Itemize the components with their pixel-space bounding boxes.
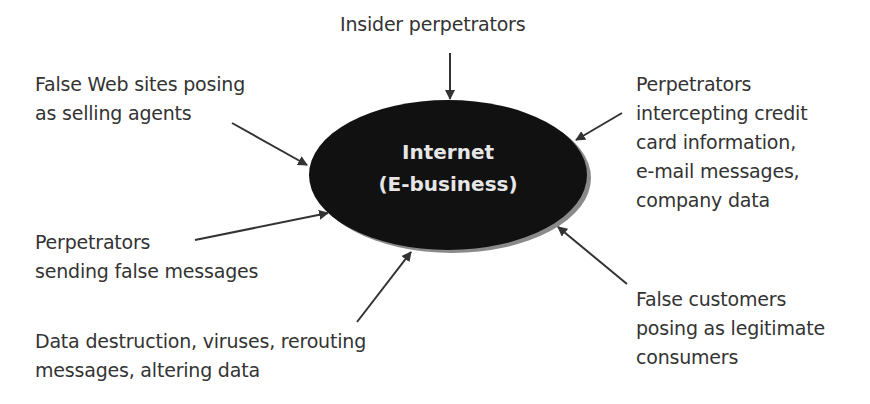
node-line: company data — [636, 186, 807, 215]
node-false-customers: False customers posing as legitimate con… — [636, 285, 825, 372]
node-line: Perpetrators — [35, 228, 258, 257]
node-intercepting: Perpetrators intercepting credit card in… — [636, 70, 807, 215]
center-label-line-1: Internet — [309, 136, 587, 168]
node-line: as selling agents — [35, 99, 245, 128]
node-line: messages, altering data — [35, 356, 366, 385]
node-line: intercepting credit — [636, 99, 807, 128]
node-line: Perpetrators — [636, 70, 807, 99]
node-line: posing as legitimate — [636, 314, 825, 343]
arrow-data-destruction — [357, 252, 411, 322]
node-line: Data destruction, viruses, rerouting — [35, 327, 366, 356]
center-label-line-2: (E-business) — [309, 168, 587, 200]
threat-diagram: Internet (E-business) Insider perpetrato… — [0, 0, 870, 404]
node-line: consumers — [636, 343, 825, 372]
node-insider: Insider perpetrators — [340, 10, 525, 39]
node-false-messages: Perpetrators sending false messages — [35, 228, 258, 286]
node-line: Insider perpetrators — [340, 10, 525, 39]
node-line: e-mail messages, — [636, 157, 807, 186]
node-line: False customers — [636, 285, 825, 314]
node-line: sending false messages — [35, 257, 258, 286]
node-line: False Web sites posing — [35, 70, 245, 99]
arrow-false-web-sites — [232, 123, 307, 165]
node-line: card information, — [636, 128, 807, 157]
center-label: Internet (E-business) — [309, 136, 587, 200]
node-false-web-sites: False Web sites posing as selling agents — [35, 70, 245, 128]
node-data-destruction: Data destruction, viruses, rerouting mes… — [35, 327, 366, 385]
arrow-false-customers — [558, 227, 627, 284]
